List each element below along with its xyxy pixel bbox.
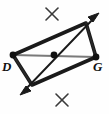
arrowhead-top-right-icon [88,13,99,22]
vertex-dot-center [51,52,58,59]
vertex-dot-D [10,52,17,59]
arrowhead-bottom-left-icon [20,86,31,95]
segment-G-to-top [86,23,96,57]
x-mark-bottom-icon [56,94,68,106]
perpendicular-bisector-line [24,17,95,91]
x-mark-top-icon [46,8,58,20]
segment-D-to-bottom [13,55,32,85]
geometry-diagram-svg [0,0,109,114]
vertex-label-D: D [2,60,11,73]
vertex-label-G: G [93,60,102,73]
geometry-figure: D G [0,0,109,114]
